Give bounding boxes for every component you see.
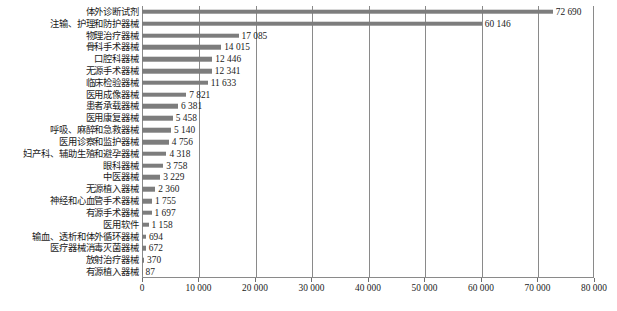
bar	[142, 187, 155, 192]
bar-row: 医疗器械消毒灭菌器械672	[142, 243, 594, 255]
bar	[142, 81, 208, 86]
x-tick-label: 70 000	[525, 283, 551, 294]
bar-row: 医用软件1 158	[142, 219, 594, 231]
bar-row: 神经和心血管手术器械1 755	[142, 195, 594, 207]
bar-value-label: 6 381	[178, 101, 202, 111]
bar-row: 医用成像器械7 821	[142, 89, 594, 101]
bar-value-label: 3 229	[160, 172, 184, 182]
bar	[142, 175, 160, 180]
bar-row: 放射治疗器械370	[142, 254, 594, 266]
bar	[142, 116, 173, 121]
bar-value-label: 4 318	[166, 149, 190, 159]
x-tick-mark	[594, 278, 595, 282]
bar	[142, 199, 152, 204]
category-label: 眼科器械	[103, 161, 139, 171]
bar-row: 骨科手术器械14 015	[142, 41, 594, 53]
x-tick-mark	[481, 278, 482, 282]
x-tick-label: 40 000	[355, 283, 381, 294]
bar-value-label: 4 756	[169, 137, 193, 147]
bar-value-label: 7 821	[186, 90, 210, 100]
bar-value-label: 14 015	[221, 42, 250, 52]
bar-row: 医用诊察和监护器械4 756	[142, 136, 594, 148]
category-label: 输血、透析和体外循环器械	[32, 232, 139, 242]
bar-row: 输血、透析和体外循环器械694	[142, 231, 594, 243]
category-label: 物理治疗器械	[86, 31, 139, 41]
bar-row: 呼吸、麻醉和急救器械5 140	[142, 124, 594, 136]
x-tick-mark	[537, 278, 538, 282]
bar-row: 物理治疗器械17 085	[142, 30, 594, 42]
bar-value-label: 5 458	[173, 113, 197, 123]
category-label: 有源手术器械	[86, 208, 139, 218]
category-label: 临床检验器械	[86, 78, 139, 88]
bar-value-label: 17 085	[239, 31, 268, 41]
category-label: 无源手术器械	[86, 66, 139, 76]
category-label: 神经和心血管手术器械	[50, 196, 139, 206]
category-label: 呼吸、麻醉和急救器械	[50, 125, 139, 135]
bar-value-label: 694	[146, 232, 163, 242]
bar-row: 注输、护理和防护器械60 146	[142, 18, 594, 30]
bar-row: 妇产科、辅助生殖和避孕器械4 318	[142, 148, 594, 160]
bar	[142, 69, 212, 74]
x-tick-mark	[424, 278, 425, 282]
category-label: 妇产科、辅助生殖和避孕器械	[23, 149, 139, 159]
category-label: 放射治疗器械	[86, 255, 139, 265]
bar-row: 中医器械3 229	[142, 172, 594, 184]
bar-row: 有源手术器械1 697	[142, 207, 594, 219]
bar-row: 体外诊断试剂72 690	[142, 6, 594, 18]
bar-value-label: 12 446	[212, 54, 241, 64]
x-tick-label: 80 000	[581, 283, 607, 294]
x-tick-mark	[311, 278, 312, 282]
category-label: 注输、护理和防护器械	[50, 19, 139, 29]
bar-row: 无源手术器械12 341	[142, 65, 594, 77]
bar-value-label: 2 360	[155, 184, 179, 194]
bar-row: 患者承载器械6 381	[142, 101, 594, 113]
bar	[142, 151, 166, 156]
bar	[142, 211, 152, 216]
bar-value-label: 87	[142, 267, 154, 277]
category-label: 医用诊察和监护器械	[59, 137, 139, 147]
bar-value-label: 3 758	[163, 161, 187, 171]
x-tick-label: 60 000	[468, 283, 494, 294]
bar-value-label: 5 140	[171, 125, 195, 135]
x-tick-label: 20 000	[242, 283, 268, 294]
bar-row: 口腔科器械12 446	[142, 53, 594, 65]
bar-value-label: 672	[146, 243, 163, 253]
bar-row: 医用康复器械5 458	[142, 112, 594, 124]
bar	[142, 21, 482, 26]
category-label: 无源植入器械	[86, 184, 139, 194]
x-tick-label: 50 000	[412, 283, 438, 294]
x-tick-mark	[368, 278, 369, 282]
category-label: 口腔科器械	[94, 54, 139, 64]
category-label: 体外诊断试剂	[86, 7, 139, 17]
bar-value-label: 370	[144, 255, 161, 265]
x-tick-label: 10 000	[186, 283, 212, 294]
category-label: 医用成像器械	[86, 90, 139, 100]
category-label: 中医器械	[103, 172, 139, 182]
bar	[142, 33, 239, 38]
bar-value-label: 1 158	[149, 220, 173, 230]
category-label: 医疗器械消毒灭菌器械	[50, 243, 139, 253]
category-label: 医用康复器械	[86, 113, 139, 123]
bar-chart: 体外诊断试剂72 690注输、护理和防护器械60 146物理治疗器械17 085…	[0, 0, 617, 311]
x-tick-label: 30 000	[299, 283, 325, 294]
x-tick-label: 0	[140, 283, 145, 294]
category-label: 患者承载器械	[86, 101, 139, 111]
bar-row: 无源植入器械2 360	[142, 183, 594, 195]
bar-value-label: 60 146	[482, 19, 511, 29]
bar	[142, 128, 171, 133]
bar	[142, 104, 178, 109]
bar-value-label: 12 341	[212, 66, 241, 76]
bar	[142, 57, 212, 62]
bar-row: 眼科器械3 758	[142, 160, 594, 172]
bar	[142, 10, 553, 15]
category-label: 医用软件	[103, 220, 139, 230]
x-tick-mark	[198, 278, 199, 282]
x-tick-mark	[255, 278, 256, 282]
bar-value-label: 11 633	[208, 78, 236, 88]
bar-value-label: 1 755	[152, 196, 176, 206]
bar-value-label: 1 697	[152, 208, 176, 218]
bar	[142, 45, 221, 50]
bar-row: 有源植入器械87	[142, 266, 594, 278]
x-tick-mark	[142, 278, 143, 282]
bar	[142, 163, 163, 168]
